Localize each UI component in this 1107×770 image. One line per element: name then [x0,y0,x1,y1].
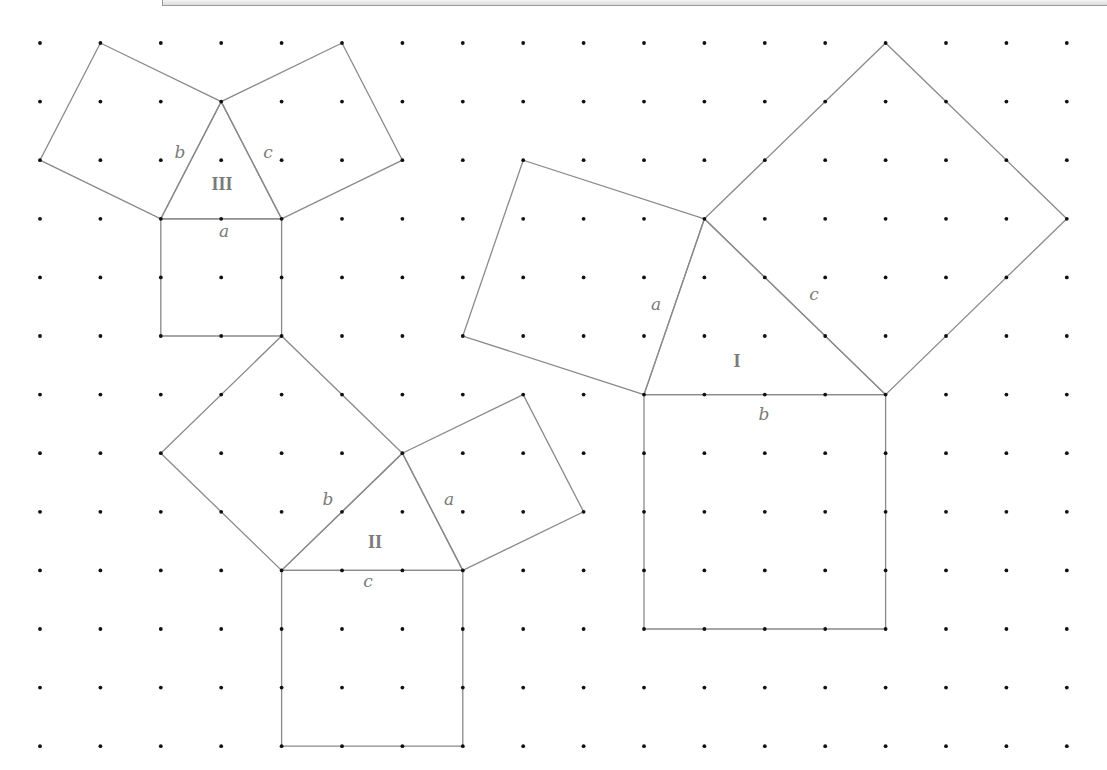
grid-dot [159,393,163,397]
grid-dot [219,334,223,338]
grid-dot [823,686,827,690]
grid-dot [340,510,344,514]
grid-dot [763,451,767,455]
figure-label-ii: II [368,532,382,552]
grid-dot [401,510,405,514]
grid-dot [340,569,344,573]
grid-dot [642,217,646,221]
grid-dot [99,510,103,514]
grid-dot [219,158,223,162]
grid-dot [401,569,405,573]
grid-dot [219,569,223,573]
grid-dot [884,334,888,338]
grid-dot [280,510,284,514]
grid-dot [38,158,42,162]
grid-dot [159,627,163,631]
grid-dot [703,510,707,514]
grid-dot [340,451,344,455]
grid-dot [401,100,405,104]
grid-dot [582,627,586,631]
grid-dot [1065,158,1069,162]
grid-dot [461,276,465,280]
grid-dot [99,276,103,280]
grid-dot [159,744,163,748]
square-b-fig-iii [40,43,221,219]
grid-dot [461,41,465,45]
figure-label-iii: III [211,174,232,194]
grid-dot [582,334,586,338]
grid-dot [884,41,888,45]
grid-dot [582,217,586,221]
grid-dot [884,393,888,397]
triangle-ii [282,453,463,570]
grid-dot [1005,158,1009,162]
grid-dot [703,686,707,690]
grid-dot [1005,217,1009,221]
grid-dot [884,510,888,514]
grid-dot [944,744,948,748]
grid-dot [1065,276,1069,280]
grid-dot [763,100,767,104]
grid-dot [219,393,223,397]
grid-dot [1065,686,1069,690]
grid-dot [884,627,888,631]
grid-dot [823,627,827,631]
grid-dot [461,744,465,748]
grid-dot [38,627,42,631]
grid-dot [521,100,525,104]
grid-dot [159,510,163,514]
grid-dot [1005,510,1009,514]
grid-dot [1065,334,1069,338]
grid-dot [763,569,767,573]
grid-dot [280,686,284,690]
grid-dot [521,334,525,338]
grid-dot [38,41,42,45]
grid-dot [1005,451,1009,455]
grid-dot [884,569,888,573]
side-label-c: c [809,284,819,304]
grid-dot [582,510,586,514]
grid-dot [884,100,888,104]
grid-dot [401,451,405,455]
grid-dot [823,393,827,397]
grid-dot [340,744,344,748]
grid-dot [38,100,42,104]
grid-dot [884,451,888,455]
grid-dot [763,510,767,514]
grid-dot [401,744,405,748]
grid-dot [823,569,827,573]
grid-dot [401,276,405,280]
grid-dot [280,276,284,280]
grid-dot [280,158,284,162]
grid-dot [763,686,767,690]
grid-dot [401,41,405,45]
grid-dot [582,451,586,455]
grid-dot [642,276,646,280]
square-c-fig-ii [282,570,463,746]
grid-dot [582,100,586,104]
grid-dot [582,276,586,280]
side-label-a: a [219,221,229,241]
grid-dot [38,276,42,280]
grid-dot [823,744,827,748]
grid-dot [1065,100,1069,104]
grid-dot [763,158,767,162]
figure-labels: IIIbcaIIbacIacb [175,142,820,591]
grid-dot [340,217,344,221]
grid-dot [280,451,284,455]
grid-dot [823,276,827,280]
grid-dot [280,217,284,221]
grid-dot [461,334,465,338]
grid-dots [38,41,1069,748]
grid-dot [521,569,525,573]
grid-dot [582,744,586,748]
grid-dot [159,334,163,338]
grid-dot [703,627,707,631]
grid-dot [944,510,948,514]
grid-dot [703,569,707,573]
side-label-c: c [363,571,373,591]
side-label-b: b [175,142,186,162]
grid-dot [703,451,707,455]
grid-dot [642,451,646,455]
